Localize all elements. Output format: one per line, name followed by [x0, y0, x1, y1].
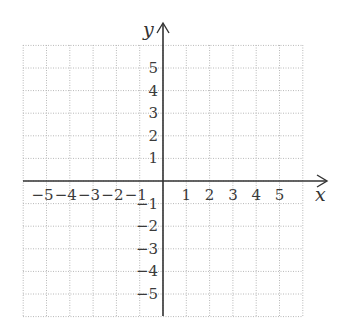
y-tick-label: 1	[148, 149, 158, 167]
axes	[23, 23, 327, 316]
x-axis-label: x	[315, 183, 326, 205]
y-tick-label: 2	[148, 127, 158, 145]
x-tick-label: −2	[101, 186, 123, 204]
y-tick-label: −3	[136, 240, 158, 258]
x-tick-label: 4	[251, 186, 261, 204]
y-axis-label: y	[142, 18, 154, 40]
y-tick-label: −2	[136, 217, 158, 235]
x-tick-label: −4	[55, 186, 77, 204]
y-tick-label: −4	[136, 262, 158, 280]
y-tick-label: 4	[148, 82, 158, 100]
x-tick-label: 1	[182, 186, 192, 204]
y-tick-label: 3	[148, 104, 158, 122]
x-tick-label: 5	[275, 186, 285, 204]
y-tick-label: −1	[136, 195, 158, 213]
coordinate-plane: x y −5−4−3−2−11234554321−1−2−3−4−5	[0, 0, 346, 322]
x-tick-label: 3	[228, 186, 238, 204]
x-tick-label: −3	[78, 186, 100, 204]
x-tick-label: 2	[205, 186, 215, 204]
y-tick-label: 5	[148, 59, 158, 77]
x-tick-label: −5	[31, 186, 53, 204]
y-tick-label: −5	[136, 285, 158, 303]
